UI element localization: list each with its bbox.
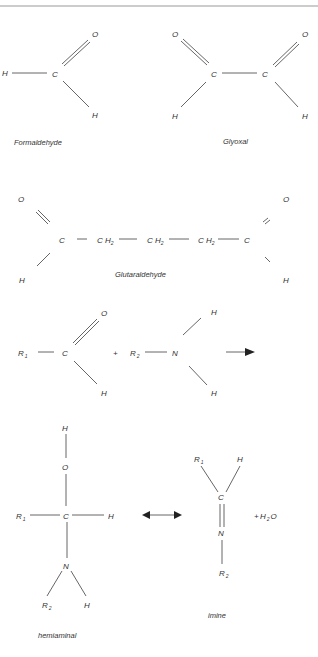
arrow-head-left-icon (142, 511, 150, 519)
reactant-amine: R2 N H H (130, 308, 217, 398)
atom-h: H (19, 276, 25, 285)
atom-ch2: C H2 (147, 236, 164, 246)
double-bond (263, 218, 268, 222)
atom-r1: R1 (18, 349, 28, 359)
atom-h: H (172, 112, 178, 121)
glyoxal-structure: O C C O H H Glyoxal (172, 30, 308, 146)
atom-n: N (63, 562, 69, 571)
chemistry-figure: H C O H Formaldehyde O C C O H H Glyoxal… (0, 0, 318, 657)
atom-n: N (218, 529, 224, 538)
bond (74, 361, 97, 384)
water-product: + H2O (254, 512, 277, 522)
atom-h: H (62, 424, 68, 433)
atom-c: C (62, 349, 68, 358)
bond (183, 318, 201, 335)
atom-h: H (2, 69, 8, 78)
bond (181, 82, 206, 107)
atom-r1: R1 (194, 455, 204, 465)
plus-sign: + (254, 512, 259, 521)
double-bond (73, 319, 97, 343)
atom-o: O (172, 30, 178, 39)
atom-r2: R2 (219, 569, 229, 579)
double-bond (183, 39, 209, 63)
atom-c: C (59, 236, 65, 245)
atom-h: H (84, 601, 90, 610)
water-formula: H2O (260, 512, 277, 522)
atom-ch2: C H2 (198, 236, 215, 246)
equilibrium-arrow (142, 511, 182, 519)
atom-h: H (237, 455, 243, 464)
atom-o: O (92, 30, 98, 39)
caption-imine: imine (208, 611, 226, 620)
arrow-head-icon (245, 348, 255, 356)
atom-r2: R2 (130, 349, 140, 359)
caption-hemiaminal: hemiaminal (38, 631, 77, 640)
arrow-head-right-icon (174, 511, 182, 519)
atom-h: H (92, 111, 98, 120)
atom-o: O (101, 309, 107, 318)
reactant-aldehyde: R1 C O H (18, 309, 107, 398)
atom-c: C (52, 70, 58, 79)
bond (226, 466, 240, 492)
atom-h: H (211, 308, 217, 317)
atom-h: H (101, 389, 107, 398)
bond (201, 466, 218, 492)
caption-glutaraldehyde: Glutaraldehyde (115, 270, 166, 279)
atom-h: H (108, 512, 114, 521)
double-bond (275, 44, 299, 67)
bond (275, 82, 298, 107)
atom-c: C (218, 493, 224, 502)
atom-r1: R1 (16, 512, 26, 522)
atom-o: O (302, 30, 308, 39)
atom-o: O (62, 463, 68, 472)
double-bond (75, 321, 99, 345)
double-bond (181, 41, 207, 65)
imine-structure: R1 H C N R2 imine (194, 455, 243, 620)
atom-o: O (283, 195, 289, 204)
hemiaminal-structure: H O R1 C H N R2 H hemiaminal (16, 424, 114, 640)
double-bond (62, 40, 88, 64)
double-bond (64, 42, 90, 66)
atom-h: H (302, 112, 308, 121)
atom-c: C (244, 236, 250, 245)
formaldehyde-structure: H C O H Formaldehyde (2, 30, 98, 147)
atom-h: H (283, 276, 289, 285)
bond (71, 571, 86, 596)
atom-c: C (211, 70, 217, 79)
plus-sign: + (113, 349, 118, 358)
bond (265, 257, 270, 262)
double-bond (273, 42, 297, 65)
bond (63, 81, 89, 107)
atom-o: O (18, 195, 24, 204)
atom-c: C (262, 70, 268, 79)
atom-n: N (172, 349, 178, 358)
reaction-arrow (226, 348, 255, 356)
atom-c: C (63, 512, 69, 521)
atom-ch2: C H2 (97, 236, 114, 246)
atom-h: H (211, 389, 217, 398)
atom-r2: R2 (42, 601, 52, 611)
bond (189, 366, 207, 385)
bond (37, 253, 50, 266)
glutaraldehyde-structure: O C C H2 C H2 C H2 C O H H Glutaraldehyd… (18, 195, 289, 285)
bond (47, 571, 62, 596)
caption-formaldehyde: Formaldehyde (14, 138, 62, 147)
caption-glyoxal: Glyoxal (223, 137, 248, 146)
double-bond (265, 220, 270, 224)
